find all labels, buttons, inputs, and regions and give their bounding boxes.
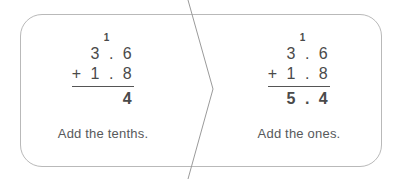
caption-left: Add the tenths. bbox=[20, 126, 186, 141]
addend-bottom-left: + 1 . 8 bbox=[72, 64, 134, 84]
worked-example-figure: 1 3 . 6 + 1 . 8 4 Add the tenths. 1 3 . … bbox=[0, 0, 403, 179]
caption-right: Add the ones. bbox=[216, 126, 382, 141]
addend-top-left: 3 . 6 bbox=[72, 44, 134, 64]
addition-rule-right bbox=[268, 86, 330, 87]
addend-bottom-right: + 1 . 8 bbox=[268, 64, 330, 84]
carry-digit-right: 1 bbox=[268, 31, 330, 44]
vertical-addition-right: 1 3 . 6 + 1 . 8 5 . 4 bbox=[268, 31, 330, 109]
step-panel-ones: 1 3 . 6 + 1 . 8 5 . 4 Add the ones. bbox=[216, 14, 382, 167]
addend-top-right: 3 . 6 bbox=[268, 44, 330, 64]
vertical-addition-left: 1 3 . 6 + 1 . 8 4 bbox=[72, 31, 134, 109]
sum-left: 4 bbox=[72, 89, 134, 109]
step-panel-tenths: 1 3 . 6 + 1 . 8 4 Add the tenths. bbox=[20, 14, 186, 167]
addition-rule-left bbox=[72, 86, 134, 87]
carry-digit-left: 1 bbox=[72, 31, 134, 44]
sum-right: 5 . 4 bbox=[268, 89, 330, 109]
